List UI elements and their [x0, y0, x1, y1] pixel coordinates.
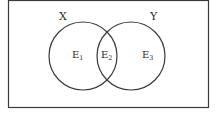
set-y-label: Y [149, 10, 158, 23]
region-e1-label: E1 [72, 49, 83, 62]
region-e3-label: E3 [142, 49, 153, 62]
set-x-label: X [59, 10, 67, 23]
venn-diagram: X Y E1 E2 E3 [0, 0, 220, 116]
region-e2-label: E2 [101, 49, 112, 62]
